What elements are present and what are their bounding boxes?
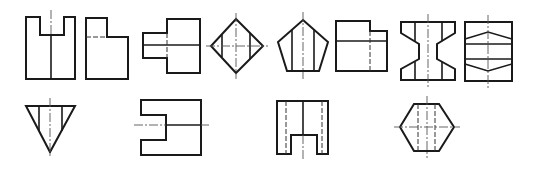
hexagonal-section-view — [465, 15, 512, 88]
u-notch-view — [26, 10, 75, 79]
l-step-view — [86, 18, 128, 79]
e-slot-view — [134, 100, 209, 155]
stepped-rectangle-view — [336, 21, 387, 71]
stepped-shaft-view — [143, 19, 200, 73]
hexagon-view — [394, 96, 460, 158]
i-beam-view — [401, 14, 455, 87]
inverted-triangle-view — [26, 98, 75, 158]
diamond-view — [206, 13, 268, 79]
views-figure — [0, 0, 538, 171]
pentagon-view — [278, 12, 328, 79]
inverted-u-view — [277, 101, 328, 160]
